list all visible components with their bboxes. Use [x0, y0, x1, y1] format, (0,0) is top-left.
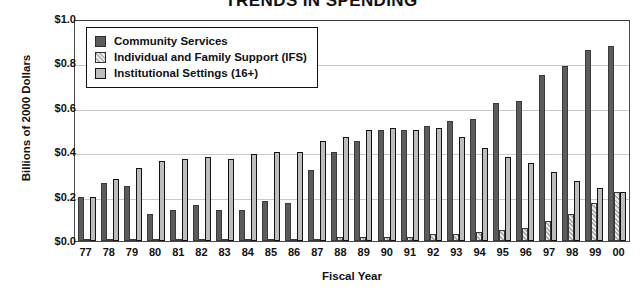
bar-inst: [136, 168, 142, 241]
bar-group: [352, 21, 375, 241]
bar-group: [606, 21, 629, 241]
x-axis-tick-label: 81: [167, 246, 190, 262]
bar-inst: [320, 141, 326, 241]
bar-group: [560, 21, 583, 241]
legend-item: Institutional Settings (16+): [95, 65, 307, 81]
chart-container: TRENDS IN SPENDING Billions of 2000 Doll…: [0, 0, 643, 296]
bar-cs: [193, 205, 199, 241]
y-axis-tick-label: $0.4: [16, 146, 76, 158]
bar-cs: [516, 101, 522, 241]
bar-inst: [528, 163, 534, 241]
chart-legend: Community ServicesIndividual and Family …: [86, 27, 318, 88]
bar-group: [444, 21, 467, 241]
bar-inst: [620, 192, 626, 241]
bar-group: [467, 21, 490, 241]
bar-inst: [159, 161, 165, 241]
bar-cs: [124, 186, 130, 242]
bar-cs: [378, 130, 384, 241]
x-axis-tick-label: 79: [120, 246, 143, 262]
bar-cs: [331, 152, 337, 241]
bar-group: [329, 21, 352, 241]
x-axis-tick-label: 78: [97, 246, 120, 262]
bar-inst: [505, 157, 511, 241]
bar-cs: [239, 210, 245, 241]
x-axis-title: Fiscal Year: [74, 270, 630, 282]
x-axis-tick-label: 00: [607, 246, 630, 262]
bar-inst: [343, 137, 349, 241]
bar-inst: [436, 128, 442, 241]
bar-inst: [297, 152, 303, 241]
bar-inst: [90, 197, 96, 241]
y-axis-tick-label: $0.0: [16, 235, 76, 247]
x-axis-ticks: 7778798081828384858687888990919293949596…: [74, 246, 630, 262]
bar-cs: [401, 130, 407, 241]
legend-swatch-icon: [95, 68, 106, 79]
bar-inst: [597, 188, 603, 241]
bar-group: [513, 21, 536, 241]
bar-cs: [170, 210, 176, 241]
bar-cs: [285, 203, 291, 241]
bar-inst: [251, 154, 257, 241]
bar-inst: [205, 157, 211, 241]
bar-inst: [413, 130, 419, 241]
y-axis-tick-label: $0.2: [16, 191, 76, 203]
bar-inst: [113, 179, 119, 241]
x-axis-tick-label: 87: [306, 246, 329, 262]
x-axis-tick-label: 95: [491, 246, 514, 262]
y-axis-tick-label: $0.6: [16, 102, 76, 114]
bar-cs: [308, 170, 314, 241]
y-axis-tick-label: $0.8: [16, 57, 76, 69]
bar-group: [537, 21, 560, 241]
bar-cs: [447, 121, 453, 241]
bar-cs: [424, 126, 430, 241]
bar-inst: [551, 172, 557, 241]
bar-inst: [574, 181, 580, 241]
x-axis-tick-label: 94: [468, 246, 491, 262]
x-axis-tick-label: 86: [283, 246, 306, 262]
x-axis-tick-label: 99: [584, 246, 607, 262]
bar-inst: [182, 159, 188, 241]
x-axis-tick-label: 83: [213, 246, 236, 262]
x-axis-tick-label: 84: [236, 246, 259, 262]
y-axis-tick-label: $1.0: [16, 13, 76, 25]
legend-label: Individual and Family Support (IFS): [114, 51, 307, 63]
bar-cs: [539, 75, 545, 242]
bar-group: [583, 21, 606, 241]
legend-label: Community Services: [114, 35, 228, 47]
x-axis-tick-label: 96: [514, 246, 537, 262]
bar-group: [398, 21, 421, 241]
bar-cs: [216, 210, 222, 241]
x-axis-tick-label: 91: [398, 246, 421, 262]
bar-inst: [366, 130, 372, 241]
bar-inst: [459, 137, 465, 241]
bar-inst: [482, 148, 488, 241]
bar-inst: [274, 152, 280, 241]
x-axis-tick-label: 97: [537, 246, 560, 262]
bar-group: [421, 21, 444, 241]
bar-group: [375, 21, 398, 241]
chart-title: TRENDS IN SPENDING: [0, 0, 643, 7]
x-axis-tick-label: 93: [445, 246, 468, 262]
x-axis-tick-label: 77: [74, 246, 97, 262]
bar-cs: [78, 197, 84, 241]
legend-swatch-icon: [95, 36, 106, 47]
bar-cs: [354, 141, 360, 241]
x-axis-tick-label: 80: [144, 246, 167, 262]
bar-cs: [101, 183, 107, 241]
x-axis-tick-label: 88: [329, 246, 352, 262]
x-axis-tick-label: 90: [375, 246, 398, 262]
x-axis-tick-label: 92: [422, 246, 445, 262]
legend-item: Individual and Family Support (IFS): [95, 49, 307, 65]
bar-group: [490, 21, 513, 241]
legend-label: Institutional Settings (16+): [114, 67, 258, 79]
legend-item: Community Services: [95, 33, 307, 49]
x-axis-tick-label: 82: [190, 246, 213, 262]
bar-inst: [228, 159, 234, 241]
bar-cs: [470, 119, 476, 241]
legend-swatch-icon: [95, 52, 106, 63]
bar-cs: [493, 103, 499, 241]
bar-cs: [147, 214, 153, 241]
bar-cs: [262, 201, 268, 241]
x-axis-tick-label: 98: [561, 246, 584, 262]
x-axis-tick-label: 89: [352, 246, 375, 262]
